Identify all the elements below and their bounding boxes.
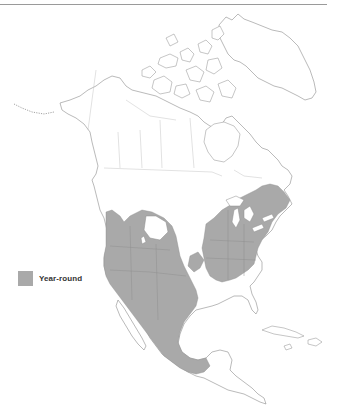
caribbean-islands <box>262 326 322 350</box>
aleutian-islands <box>14 104 54 114</box>
legend-label-year-round: Year-round <box>39 274 82 283</box>
map-legend: Year-round <box>18 271 82 286</box>
legend-swatch-year-round <box>18 271 33 286</box>
range-map <box>0 0 343 416</box>
